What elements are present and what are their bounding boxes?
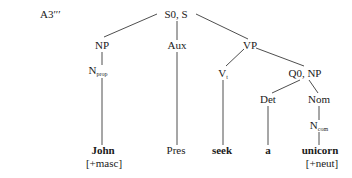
node-nom: Nom — [308, 93, 330, 105]
node-v-t-label: V — [218, 67, 226, 79]
node-n-prop-subscript: prop — [96, 71, 107, 77]
edge-vp-vt — [226, 49, 244, 66]
node-v-t: Vt — [218, 67, 228, 80]
feature-masc: [+masc] — [86, 157, 122, 169]
node-n-prop-label: N — [89, 64, 97, 76]
edge-vp-qnp — [256, 48, 304, 66]
edge-qnp-nom — [309, 80, 318, 93]
node-v-t-subscript: t — [226, 74, 228, 80]
leaf-john: John — [91, 144, 114, 156]
leaf-unicorn: unicorn — [302, 144, 339, 156]
leaf-a: a — [265, 144, 271, 156]
node-np: NP — [95, 39, 109, 51]
node-det: Det — [260, 93, 276, 105]
leaf-pres: Pres — [167, 144, 186, 156]
edge-root-np1 — [104, 14, 157, 37]
node-s0-s: S0, S — [164, 8, 187, 20]
tree-edges — [102, 14, 319, 145]
leaf-seek: seek — [212, 144, 233, 156]
node-n-com-subscript: com — [318, 126, 329, 132]
edge-qnp-det — [272, 80, 300, 93]
node-q0-np: Q0, NP — [288, 67, 321, 79]
node-n-com-label: N — [310, 119, 318, 131]
diagram-label: A3′′′ — [40, 8, 61, 20]
node-vp: VP — [243, 39, 257, 51]
node-n-prop: Nprop — [89, 64, 108, 77]
node-n-com: Ncom — [310, 119, 329, 132]
edge-root-vp — [196, 14, 248, 39]
syntax-tree: A3′′′ S0, S NP Aux VP Nprop Vt Q0, NP De… — [0, 0, 352, 178]
feature-neut: [+neut] — [306, 157, 338, 169]
node-aux: Aux — [168, 39, 187, 51]
